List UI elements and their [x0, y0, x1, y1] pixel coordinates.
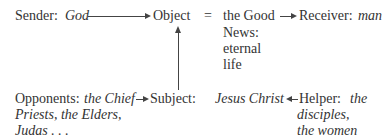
arrow-right-icon — [143, 96, 149, 102]
object-label: Object — [153, 8, 190, 24]
sender-object-arrow-line — [88, 16, 146, 17]
object-value-line-4: life — [223, 57, 242, 73]
opponents-value-line-1: the Chief — [84, 91, 135, 107]
object-value-line-1: the Good — [223, 8, 275, 24]
subject-value: Jesus Christ — [215, 91, 284, 107]
arrow-up-icon — [175, 26, 181, 33]
equals-sign: = — [204, 8, 212, 24]
helper-subject-arrow-line — [291, 99, 298, 100]
subject-label: Subject: — [150, 91, 196, 107]
sender-label: Sender: — [15, 8, 58, 24]
receiver-label: Receiver: — [299, 8, 353, 24]
opponents-value-line-3: Judas . . . — [15, 123, 69, 138]
sender-value: God — [65, 8, 89, 24]
subject-object-arrow-line — [178, 32, 179, 90]
helper-label: Helper: — [299, 91, 341, 107]
opponents-label: Opponents: — [15, 91, 80, 107]
arrow-right-icon — [145, 13, 151, 19]
opponents-value-line-2: Priests, the Elders, — [15, 107, 122, 123]
helper-value-line-3: the women — [297, 123, 357, 138]
helper-value-line-2: disciples, — [297, 107, 350, 123]
object-value-line-3: eternal — [223, 41, 261, 57]
receiver-value: man — [358, 8, 382, 24]
helper-value-line-1: the — [350, 91, 367, 107]
arrow-right-icon — [291, 13, 297, 19]
object-value-line-2: News: — [223, 25, 259, 41]
